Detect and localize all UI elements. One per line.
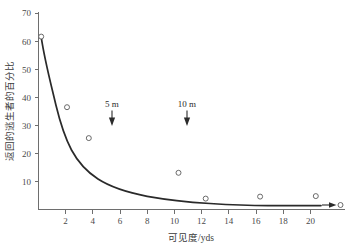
y-tick-60: 60 [22,37,39,47]
plot-canvas: 70 60 50 40 30 20 [0,0,353,246]
data-point [176,170,181,175]
arrow-right-icon [329,202,337,208]
fit-curve [41,37,321,206]
data-point [338,203,343,208]
y-tick-label: 70 [22,8,32,18]
y-tick-50: 50 [22,65,39,75]
annotation-5m: 5 m [105,99,119,127]
y-tick-label: 40 [22,93,32,103]
x-tick-label: 10 [170,216,180,226]
x-tick-18: 18 [279,210,289,227]
x-tick-20: 20 [306,210,316,227]
y-tick-label: 30 [22,121,32,131]
annotation-10m: 10 m [178,99,196,127]
x-tick-label: 8 [145,216,150,226]
y-axis-title: 返回的逃生者的百分比 [4,61,15,161]
arrow-down-icon [184,118,190,127]
x-tick-label: 4 [91,216,96,226]
data-point [203,196,208,201]
y-tick-20: 20 [22,149,39,159]
x-axis-title: 可见度/yds [168,232,214,243]
y-tick-40: 40 [22,93,39,103]
data-points-group [39,34,343,207]
x-tick-label: 6 [118,216,123,226]
x-tick-label: 2 [63,216,68,226]
annotation-label: 10 m [178,99,196,109]
x-tick-10: 10 [170,210,180,227]
x-tick-12: 12 [197,210,206,227]
x-axis-ticks: 2 4 6 8 10 12 [63,210,315,227]
chart-figure: 70 60 50 40 30 20 [0,0,353,246]
y-axis-ticks: 70 60 50 40 30 20 [22,8,39,187]
data-point [65,105,70,110]
y-tick-10: 10 [22,177,39,187]
y-tick-label: 60 [22,37,32,47]
x-tick-4: 4 [91,210,96,227]
x-tick-16: 16 [252,210,262,227]
data-point [86,136,91,141]
y-tick-label: 50 [22,65,32,75]
y-tick-label: 10 [22,177,32,187]
x-tick-label: 16 [252,216,262,226]
y-tick-30: 30 [22,121,39,131]
x-tick-label: 12 [197,216,206,226]
x-tick-2: 2 [63,210,68,227]
data-point [39,34,44,39]
y-tick-label: 20 [22,149,32,159]
x-tick-8: 8 [145,210,150,227]
data-point [313,194,318,199]
axes-group [39,12,346,210]
annotation-label: 5 m [105,99,119,109]
x-tick-label: 14 [224,216,234,226]
annotation-right-arrow [322,202,337,208]
x-tick-6: 6 [118,210,123,227]
x-tick-14: 14 [224,210,234,227]
y-tick-70: 70 [22,8,39,18]
arrow-down-icon [109,118,115,127]
x-tick-label: 20 [306,216,316,226]
data-point [258,194,263,199]
x-tick-label: 18 [279,216,289,226]
